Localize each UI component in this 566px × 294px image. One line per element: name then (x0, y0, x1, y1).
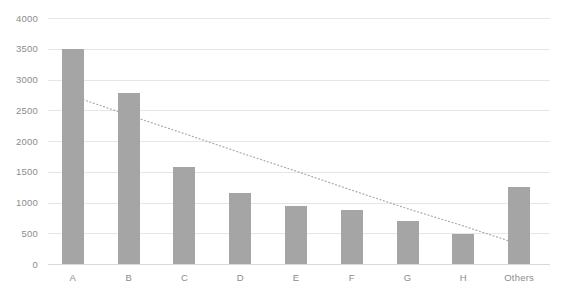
bar[interactable] (173, 167, 195, 264)
x-axis-tick-label: H (460, 272, 467, 283)
y-axis-tick-label: 0 (33, 259, 38, 270)
y-axis-tick-label: 3500 (16, 43, 38, 54)
x-axis-tick-label: F (349, 272, 355, 283)
chart-canvas: 05001000150020002500300035004000 ABCDEFG… (0, 0, 566, 294)
x-axis-tick-label: Others (504, 272, 534, 283)
y-axis-tick-label: 3000 (16, 74, 38, 85)
bar[interactable] (285, 206, 307, 264)
bar[interactable] (508, 187, 530, 264)
bar-chart: 05001000150020002500300035004000 ABCDEFG… (0, 0, 566, 294)
bar[interactable] (62, 49, 84, 264)
x-axis-tick-label: A (70, 272, 77, 283)
y-axis-tick-label: 500 (22, 228, 38, 239)
x-axis-tick-label: B (125, 272, 132, 283)
bar[interactable] (118, 93, 140, 264)
bar[interactable] (397, 221, 419, 264)
y-axis-tick-label: 2500 (16, 105, 38, 116)
y-axis-tick-labels: 05001000150020002500300035004000 (16, 13, 38, 270)
x-axis-tick-label: E (293, 272, 300, 283)
bars-group (62, 49, 530, 264)
x-axis-tick-label: D (237, 272, 244, 283)
y-axis-tick-label: 1500 (16, 166, 38, 177)
bar[interactable] (341, 210, 363, 264)
x-axis-tick-labels: ABCDEFGHOthers (70, 272, 534, 283)
y-axis-tick-label: 4000 (16, 13, 38, 24)
bar[interactable] (229, 193, 251, 264)
y-axis-tick-label: 1000 (16, 197, 38, 208)
x-axis-tick-label: C (181, 272, 188, 283)
bar[interactable] (452, 234, 474, 264)
y-axis-tick-label: 2000 (16, 136, 38, 147)
x-axis-tick-label: G (404, 272, 412, 283)
